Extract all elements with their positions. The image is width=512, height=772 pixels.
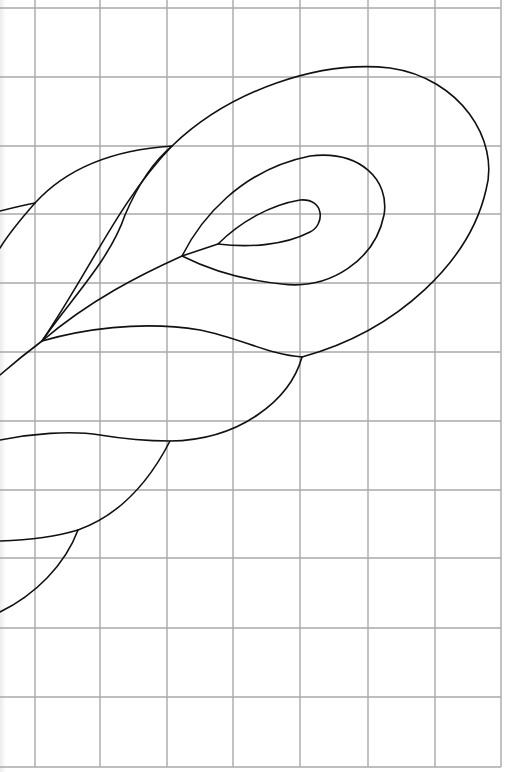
bottom-left-tail xyxy=(0,530,78,612)
middle-plume-loop xyxy=(182,155,385,285)
upper-left-feather xyxy=(0,146,172,248)
outer-plume-loop xyxy=(42,67,489,357)
lower-wave xyxy=(0,433,170,530)
lower-feather-arc xyxy=(170,357,302,441)
grid-lines xyxy=(0,0,501,767)
central-spine xyxy=(0,244,218,375)
bottom-left-arc xyxy=(0,530,78,541)
feather-curves xyxy=(0,67,489,612)
pattern-canvas xyxy=(0,0,512,772)
